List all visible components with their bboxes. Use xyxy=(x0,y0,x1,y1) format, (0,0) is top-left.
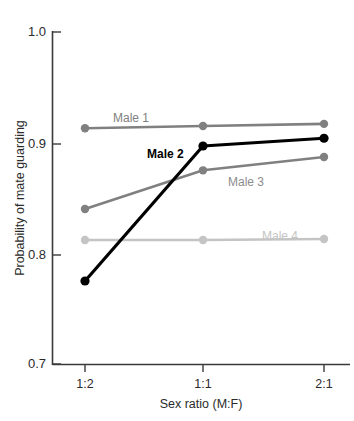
x-tick-label-1-1: 1:1 xyxy=(194,377,211,391)
series-label-male-2: Male 2 xyxy=(147,147,184,161)
data-point-male-4-2-1 xyxy=(320,235,328,243)
y-tick-label-0.8: 0.8 xyxy=(28,247,46,262)
chart-page: 1.0 0.9 0.8 0.7 1:2 1:1 2:1 Sex ratio (M… xyxy=(0,0,354,421)
data-point-male-4-1-2 xyxy=(81,236,89,244)
data-point-male-2-1-2 xyxy=(80,276,89,285)
x-axis-title: Sex ratio (M:F) xyxy=(160,397,243,411)
series-label-male-3: Male 3 xyxy=(228,175,264,189)
y-tick-label-1.0: 1.0 xyxy=(28,24,46,39)
line-chart: 1.0 0.9 0.8 0.7 1:2 1:1 2:1 Sex ratio (M… xyxy=(0,0,354,421)
y-tick-label-0.7: 0.7 xyxy=(28,356,46,371)
y-axis-title: Probability of mate guarding xyxy=(13,120,27,276)
series-label-male-4: Male 4 xyxy=(262,229,298,243)
data-point-male-2-2-1 xyxy=(319,134,328,143)
x-tick-label-2-1: 2:1 xyxy=(315,377,332,391)
data-point-male-4-1-1 xyxy=(199,236,207,244)
y-tick-label-0.9: 0.9 xyxy=(28,136,46,151)
series-label-male-1: Male 1 xyxy=(113,111,149,125)
data-point-male-1-2-1 xyxy=(320,120,328,128)
x-tick-label-1-2: 1:2 xyxy=(76,377,93,391)
data-point-male-1-1-1 xyxy=(199,122,207,130)
data-point-male-1-1-2 xyxy=(81,124,89,132)
data-point-male-3-2-1 xyxy=(320,153,328,161)
data-point-male-3-1-1 xyxy=(199,166,207,174)
data-point-male-2-1-1 xyxy=(198,141,207,150)
data-point-male-3-1-2 xyxy=(81,205,89,213)
